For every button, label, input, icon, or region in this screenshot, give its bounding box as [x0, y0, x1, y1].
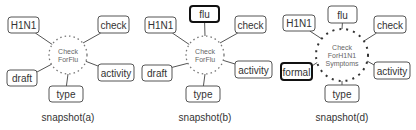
node-check: check [98, 16, 129, 33]
snapshot-1: CheckForFlufluH1N1checkdraftactivitytype… [142, 6, 272, 123]
hub-label: Check [58, 48, 78, 55]
node-activity: activity [374, 62, 410, 79]
node-type: type [186, 86, 220, 102]
edge-check [83, 33, 101, 43]
edge-type [203, 74, 205, 86]
node-label: type [57, 89, 76, 100]
hub-label: Check [332, 44, 352, 51]
node-draft: draft [142, 65, 172, 81]
node-label: draft [147, 68, 167, 79]
snapshot-caption: snapshot(d) [316, 112, 369, 123]
node-activity: activity [235, 61, 272, 78]
hub-label: Symptoms [325, 60, 359, 68]
snapshot-2: CheckForH1N1SymptomsfluH1N1checkformalac… [281, 6, 410, 123]
snapshot-caption: snapshot(b) [179, 112, 232, 123]
diagram-canvas: CheckForFluH1N1checkdraftactivitytypesna… [0, 0, 416, 130]
node-label: check [377, 20, 404, 31]
edge-h1n1 [172, 33, 190, 45]
node-check: check [374, 16, 406, 33]
node-label: flu [337, 10, 348, 21]
edge-h1n1 [310, 31, 322, 39]
node-label: flu [199, 9, 210, 20]
node-label: H1N1 [286, 18, 312, 29]
node-label: check [100, 20, 127, 31]
node-h1n1: H1N1 [145, 17, 176, 33]
node-label: draft [12, 73, 32, 84]
node-activity: activity [98, 64, 134, 81]
edge-h1n1 [35, 33, 53, 45]
edge-check [220, 33, 238, 43]
snapshot-caption: snapshot(a) [42, 112, 95, 123]
edge-type [66, 74, 68, 86]
node-label: activity [101, 68, 132, 79]
node-label: H1N1 [148, 20, 174, 31]
node-flu: flu [190, 6, 219, 22]
edge-activity [222, 60, 235, 64]
hub-label: ForH1N1 [328, 52, 357, 59]
hub-label: ForFlu [58, 56, 78, 63]
hub-label: ForFlu [195, 56, 215, 63]
edge-activity [85, 61, 98, 66]
edge-draft [172, 63, 189, 67]
node-draft: draft [7, 70, 37, 86]
node-label: check [237, 20, 264, 31]
node-flu: flu [328, 6, 357, 23]
node-h1n1: H1N1 [8, 17, 39, 33]
node-formal: formal [281, 63, 312, 80]
edge-draft [37, 64, 52, 72]
node-label: type [194, 89, 213, 100]
edge-check [364, 33, 377, 41]
node-label: type [333, 89, 352, 100]
node-label: formal [283, 67, 311, 78]
node-type: type [49, 86, 83, 102]
node-type: type [325, 85, 359, 102]
node-h1n1: H1N1 [283, 15, 315, 31]
node-label: H1N1 [11, 20, 37, 31]
hub-label: Check [195, 48, 215, 55]
edge-activity [367, 61, 374, 65]
node-label: activity [238, 65, 269, 76]
node-label: activity [377, 66, 408, 77]
snapshot-0: CheckForFluH1N1checkdraftactivitytypesna… [7, 16, 134, 123]
node-check: check [235, 16, 266, 33]
